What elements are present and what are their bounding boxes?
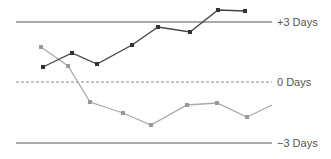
label-0-days: 0 Days [277,76,312,88]
light-series-point [66,64,70,68]
reference-lines [16,22,272,143]
light-series-point [88,100,92,104]
dark-series-point [130,43,134,47]
light-series-point [185,103,189,107]
dark-series-point [41,65,45,69]
light-series-point [245,115,249,119]
dark-series-point [243,9,247,13]
light-series-point [215,101,219,105]
series-layer [39,8,272,127]
line-chart: +3 Days 0 Days −3 Days [0,0,331,159]
dark-series-point [188,30,192,34]
dark-series-point [95,62,99,66]
light-series-line [41,47,272,125]
dark-series-line [43,10,245,67]
light-series-point [149,123,153,127]
dark-series-point [70,51,74,55]
dark-series-point [156,25,160,29]
light-series-point [39,45,43,49]
light-series-point [121,111,125,115]
label-minus-3-days: −3 Days [277,137,318,149]
label-plus-3-days: +3 Days [277,16,318,28]
dark-series-point [216,8,220,12]
